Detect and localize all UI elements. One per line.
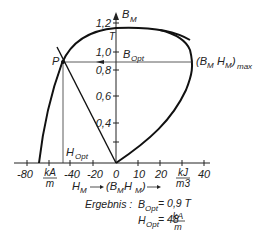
h-unit: kA m xyxy=(43,167,57,189)
svg-text:M: M xyxy=(135,186,142,195)
result-block: Ergebnis : B Opt = 0,9 T H Opt = 48 kA m xyxy=(85,197,193,232)
h-axis-label: H xyxy=(72,180,80,192)
y-tick-0-4: 0,4 xyxy=(96,117,111,129)
svg-text:M: M xyxy=(207,61,214,70)
svg-text:B: B xyxy=(138,198,145,210)
svg-text:M: M xyxy=(225,61,232,70)
bh-max-label: (B M H M ) max xyxy=(196,55,253,71)
b-opt-label-sub: Opt xyxy=(131,54,145,63)
point-p-marker xyxy=(61,60,65,64)
svg-text:m: m xyxy=(46,178,54,189)
y-tick-1-0: 1,0 xyxy=(96,46,112,58)
tesla-unit: T xyxy=(109,31,116,42)
y-tick-1-2: 1,2 xyxy=(96,17,111,29)
svg-text:m3: m3 xyxy=(176,178,190,189)
magnet-diagram: 0,4 0,6 0,8 1,0 1,2 T B M B Opt P (B M H… xyxy=(0,0,274,240)
y-tick-0-8: 0,8 xyxy=(96,64,112,76)
y-tick-0-6: 0,6 xyxy=(96,90,112,102)
h-axis-arrow-icon xyxy=(100,185,104,189)
h-opt-label-sub: Opt xyxy=(75,152,89,161)
bh-axis-label: (B M H M ) xyxy=(106,180,146,195)
bh-axis-arrow-icon xyxy=(157,185,161,189)
svg-text:(B: (B xyxy=(106,180,117,192)
h-opt-label: H xyxy=(66,146,74,158)
b-opt-result: = 0,9 T xyxy=(158,197,193,209)
svg-text:Opt: Opt xyxy=(145,204,159,213)
svg-text:max: max xyxy=(237,62,253,71)
bh-unit: kJ m3 xyxy=(176,167,190,189)
demagnetization-curve xyxy=(39,28,190,163)
svg-text:M: M xyxy=(117,186,124,195)
point-p-label: P xyxy=(52,55,60,67)
y-axis-label-sub: M xyxy=(130,15,137,24)
svg-text:10: 10 xyxy=(133,168,146,180)
svg-text:kA: kA xyxy=(173,211,184,221)
svg-text:kA: kA xyxy=(44,167,56,178)
svg-text:-20: -20 xyxy=(87,168,104,180)
svg-text:40: 40 xyxy=(198,168,211,180)
svg-text:H: H xyxy=(217,55,225,67)
h-axis-label-sub: M xyxy=(80,186,87,195)
svg-text:-80: -80 xyxy=(17,168,34,180)
svg-text:kJ: kJ xyxy=(178,167,189,178)
svg-text:H: H xyxy=(124,180,132,192)
result-label: Ergebnis : xyxy=(85,198,132,210)
svg-text:m: m xyxy=(174,222,182,232)
y-axis-arrow-icon xyxy=(113,12,119,20)
svg-text:(B: (B xyxy=(196,55,207,67)
b-opt-label: B xyxy=(123,48,130,60)
y-axis-label: B xyxy=(122,8,129,20)
svg-text:20: 20 xyxy=(154,168,168,180)
svg-text:-40: -40 xyxy=(64,168,81,180)
svg-text:H: H xyxy=(138,214,146,226)
svg-text:0: 0 xyxy=(113,168,120,180)
